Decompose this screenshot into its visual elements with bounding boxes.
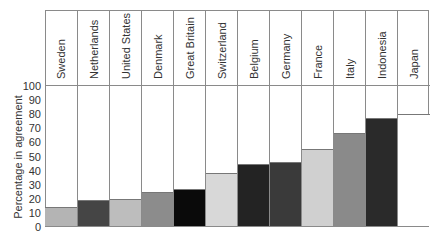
bar [206, 173, 238, 227]
y-tick-label: 100 [23, 81, 41, 92]
bar-chart: Percentage in agreement 0102030405060708… [0, 0, 438, 241]
bar [270, 162, 302, 227]
country-column: France [301, 10, 333, 227]
country-column: Belgium [237, 10, 269, 227]
country-column: Italy [333, 10, 365, 227]
country-label-cell: Germany [270, 10, 302, 86]
country-label: Belgium [248, 39, 260, 79]
country-label-cell: Indonesia [366, 10, 398, 86]
country-column: Switzerland [205, 10, 237, 227]
country-column: Denmark [141, 10, 173, 227]
country-label: Great Britain [184, 17, 196, 79]
country-column: Germany [269, 10, 301, 227]
country-label-cell: France [302, 10, 334, 86]
y-tick-label: 70 [29, 123, 41, 134]
bar [238, 164, 270, 227]
bar [142, 192, 174, 227]
y-tick-label: 50 [29, 151, 41, 162]
country-label: Indonesia [376, 31, 388, 79]
country-column: United States [109, 10, 141, 227]
country-column: Great Britain [173, 10, 205, 227]
x-axis-baseline [45, 226, 429, 227]
bar [78, 200, 110, 227]
bar [398, 114, 430, 227]
y-tick-label: 40 [29, 165, 41, 176]
country-label: Sweden [55, 39, 67, 79]
y-tick-label: 80 [29, 109, 41, 120]
country-label: Switzerland [216, 22, 228, 79]
country-label: Italy [344, 59, 356, 79]
bar [366, 118, 398, 227]
country-label: France [312, 45, 324, 79]
country-label-cell: Netherlands [78, 10, 110, 86]
country-label-cell: Italy [334, 10, 366, 86]
bar [174, 189, 206, 227]
country-label-cell: Great Britain [174, 10, 206, 86]
country-label-cell: Denmark [142, 10, 174, 86]
country-column: Japan [397, 10, 429, 227]
country-column: Indonesia [365, 10, 397, 227]
country-label: Japan [408, 49, 420, 79]
country-label: Denmark [152, 34, 164, 79]
bar [45, 207, 77, 227]
y-tick-label: 60 [29, 137, 41, 148]
y-tick-label: 10 [29, 207, 41, 218]
country-label-cell: Japan [398, 10, 430, 86]
country-label: Netherlands [88, 20, 100, 79]
country-label-cell: Belgium [238, 10, 270, 86]
country-label-cell: Sweden [45, 10, 77, 86]
bar [110, 199, 142, 227]
bar [334, 133, 366, 227]
y-tick-label: 30 [29, 179, 41, 190]
y-tick-label: 0 [35, 222, 41, 233]
country-column: Sweden [45, 10, 77, 227]
country-label: Germany [280, 34, 292, 79]
country-label: United States [120, 13, 132, 79]
y-tick-label: 20 [29, 193, 41, 204]
country-label-cell: United States [110, 10, 142, 86]
y-axis-label: Percentage in agreement [12, 95, 24, 219]
bar [302, 149, 334, 227]
country-label-cell: Switzerland [206, 10, 238, 86]
y-tick-label: 90 [29, 95, 41, 106]
country-column: Netherlands [77, 10, 109, 227]
